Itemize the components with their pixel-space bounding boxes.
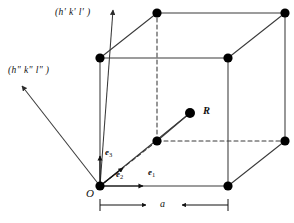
cube-back-face [157,13,285,141]
label-hkl-prime: (h' k' l' ) [55,8,91,18]
vertex-back-bottom-right [280,136,289,145]
basis-e1-subscript: 1 [152,171,155,178]
vertex-origin [95,181,104,190]
vertex-back-top-right [280,8,289,17]
vertex-back-top-left [152,8,161,17]
ray-hkl-prime [100,10,113,186]
label-point-r: R [203,106,210,117]
figure-canvas: (h' k' l' ) (h" k" l" ) O R e1 e2 e3 a [0,0,294,223]
cube-depth-edges [100,13,285,186]
label-basis-e3: e3 [105,148,112,157]
cube-front-face [100,58,228,186]
vertex-front-top-left [95,53,104,62]
cube-hidden-edges [100,13,285,186]
ray-hkl-double-prime [22,86,100,186]
vertex-back-bottom-left [152,136,161,145]
vertex-front-bottom-right [223,181,232,190]
unit-cell-drawing [0,0,294,223]
vertex-front-top-right [223,53,232,62]
label-hkl-double-prime: (h" k" l" ) [8,66,49,76]
label-basis-e2: e2 [116,170,123,179]
lattice-point-r [185,108,195,118]
label-lattice-constant: a [160,199,165,209]
lattice-vertices [95,8,289,190]
label-basis-e1: e1 [148,168,155,177]
label-origin: O [86,188,94,199]
basis-e2-subscript: 2 [120,173,123,180]
basis-e3-subscript: 3 [109,151,112,158]
